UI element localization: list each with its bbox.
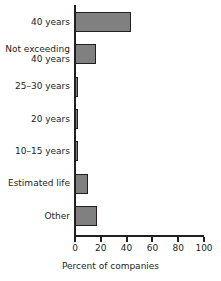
bar	[74, 174, 88, 194]
category-label-line: 25–30 years	[0, 81, 70, 92]
category-label-line: 40 years	[0, 54, 70, 65]
bar-chart: 40 yearsNot exceeding40 years25–30 years…	[0, 0, 221, 281]
bar	[74, 206, 97, 226]
category-label: Other	[0, 211, 70, 222]
x-axis-title: Percent of companies	[0, 261, 221, 272]
bar	[74, 44, 96, 64]
x-axis-tick	[74, 237, 76, 242]
bar-row	[74, 77, 203, 97]
bar-row	[74, 206, 203, 226]
category-label-line: 10–15 years	[0, 146, 70, 157]
category-label: 10–15 years	[0, 146, 70, 157]
x-axis-tick	[100, 237, 102, 242]
x-axis-line	[74, 235, 204, 237]
bar-row	[74, 109, 203, 129]
bar-row	[74, 174, 203, 194]
category-label: Not exceeding40 years	[0, 44, 70, 65]
bar	[74, 12, 131, 32]
category-label-line: Other	[0, 211, 70, 222]
category-label: Estimated life	[0, 178, 70, 189]
category-label-line: Not exceeding	[0, 44, 70, 55]
category-label-line: Estimated life	[0, 178, 70, 189]
y-axis-line	[74, 5, 76, 236]
x-axis-tick	[151, 237, 153, 242]
bar-row	[74, 12, 203, 32]
x-axis-tick	[203, 237, 205, 242]
category-label-line: 40 years	[0, 17, 70, 28]
bar-row	[74, 44, 203, 64]
x-axis-tick	[177, 237, 179, 242]
category-label: 25–30 years	[0, 81, 70, 92]
x-axis-tick-label: 100	[189, 243, 219, 254]
category-label: 20 years	[0, 114, 70, 125]
bar-row	[74, 141, 203, 161]
category-label: 40 years	[0, 17, 70, 28]
category-label-line: 20 years	[0, 114, 70, 125]
x-axis-tick	[126, 237, 128, 242]
plot-area	[74, 6, 203, 232]
